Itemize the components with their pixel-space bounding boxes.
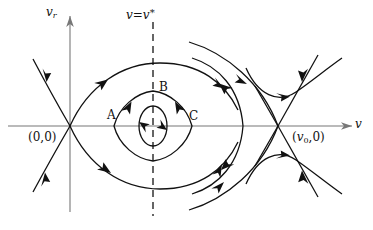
origin-y: 0 <box>44 130 52 144</box>
orbit-label-C: C <box>189 110 198 122</box>
right-outer-lower <box>189 126 278 210</box>
separatrix-upper-left <box>33 59 70 126</box>
v-axis-label: v <box>355 118 362 130</box>
right-cross-lower-left-stub <box>255 86 278 126</box>
v-star-base: v <box>143 8 150 22</box>
origin-point-label: (0,0) <box>28 131 56 143</box>
far-right-upper-branch <box>246 58 342 97</box>
v0-point-label: (v0,0) <box>292 131 325 145</box>
outer-loop-lower <box>70 126 238 189</box>
arrow-outer-lower-left <box>97 162 111 173</box>
arrow-middle-upper-right <box>175 102 186 115</box>
v-star-prefix: v <box>126 8 133 22</box>
arrow-inner-right <box>156 120 167 130</box>
right-inner-lower <box>192 126 243 194</box>
v0-close: ) <box>320 130 325 144</box>
origin-close: ) <box>52 130 57 144</box>
arrow-inner-left <box>139 122 150 132</box>
phase-portrait-figure: vr v=v* v (0,0) (v0,0) A B C <box>0 0 373 230</box>
vr-axis-label-base: v <box>46 5 53 19</box>
v-star-line-label: v=v* <box>126 8 155 21</box>
far-right-lower-branch <box>246 155 342 194</box>
vr-axis-label-subscript: r <box>53 11 57 20</box>
right-inner-arrowheads <box>212 78 224 178</box>
axis-group <box>8 16 352 212</box>
right-outer-upper <box>189 42 278 126</box>
orbit-label-B: B <box>159 81 168 93</box>
v-star-equals: = <box>133 8 143 22</box>
right-cross-upper-left-stub <box>255 126 278 166</box>
v0-y: 0 <box>312 130 320 144</box>
orbit-label-A: A <box>107 109 116 121</box>
vr-axis-label: vr <box>46 6 57 20</box>
right-inner-upper <box>192 58 243 126</box>
phase-portrait-canvas <box>0 0 373 230</box>
v-star-superscript: * <box>150 7 155 18</box>
outer-loop-upper <box>70 63 238 126</box>
arrow-right-inner-lower <box>212 164 222 178</box>
